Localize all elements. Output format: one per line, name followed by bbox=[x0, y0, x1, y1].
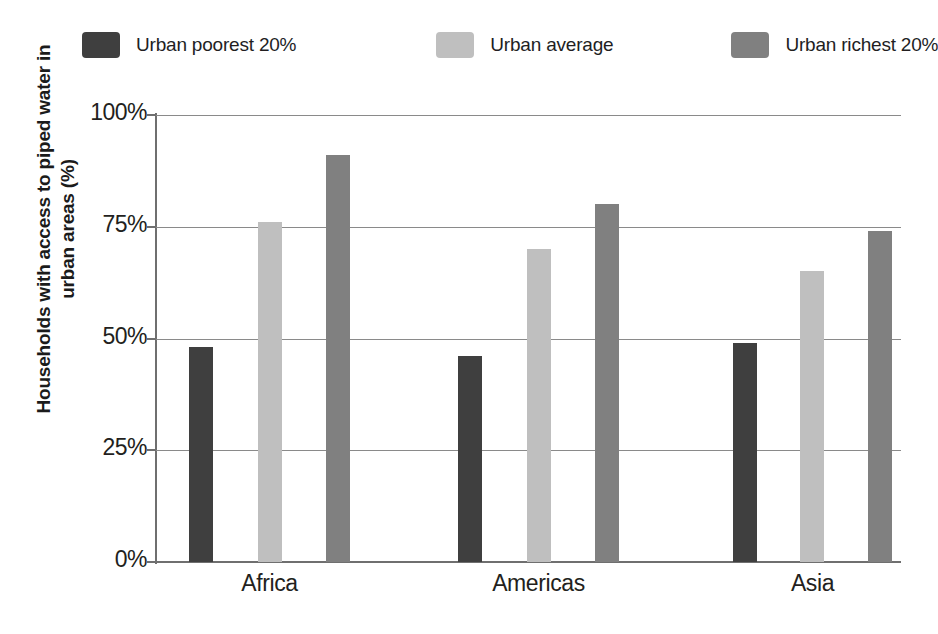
legend-swatch-urban-average bbox=[436, 32, 474, 58]
y-axis-tick-labels: 0%25%50%75%100% bbox=[52, 0, 147, 634]
y-tick-mark-100% bbox=[147, 114, 156, 116]
y-tick-label: 50% bbox=[61, 323, 147, 350]
legend-item-urban-average: Urban average bbox=[436, 32, 613, 58]
x-axis-category-labels: AfricaAmericasAsia bbox=[155, 570, 901, 610]
bar-asia-urban-richest-20[interactable] bbox=[868, 231, 892, 562]
bar-americas-urban-average[interactable] bbox=[527, 249, 551, 562]
y-tick-mark-0% bbox=[147, 561, 156, 563]
bar-africa-urban-richest-20[interactable] bbox=[326, 155, 350, 562]
x-label-americas: Americas bbox=[492, 570, 585, 597]
bar-africa-urban-average[interactable] bbox=[258, 222, 282, 562]
legend-label-urban-richest: Urban richest 20% bbox=[785, 34, 938, 56]
y-tick-label: 0% bbox=[61, 546, 147, 573]
bar-americas-urban-poorest-20[interactable] bbox=[458, 356, 482, 562]
gridline-100% bbox=[155, 115, 901, 116]
x-label-asia: Asia bbox=[791, 570, 834, 597]
legend-swatch-urban-richest bbox=[731, 32, 769, 58]
y-tick-label: 100% bbox=[61, 99, 147, 126]
y-tick-label: 25% bbox=[61, 434, 147, 461]
y-tick-mark-25% bbox=[147, 449, 156, 451]
bar-asia-urban-average[interactable] bbox=[800, 271, 824, 562]
y-axis-title-line1: Households with access to piped water in bbox=[33, 45, 54, 414]
bar-africa-urban-poorest-20[interactable] bbox=[189, 347, 213, 562]
legend-item-urban-richest: Urban richest 20% bbox=[731, 32, 938, 58]
bar-asia-urban-poorest-20[interactable] bbox=[733, 343, 757, 562]
x-label-africa: Africa bbox=[241, 570, 297, 597]
plot-area bbox=[155, 115, 901, 562]
y-tick-mark-50% bbox=[147, 338, 156, 340]
y-tick-mark-75% bbox=[147, 226, 156, 228]
legend-label-urban-average: Urban average bbox=[490, 34, 613, 56]
legend-label-urban-poorest: Urban poorest 20% bbox=[136, 34, 296, 56]
bar-americas-urban-richest-20[interactable] bbox=[595, 204, 619, 562]
y-tick-label: 75% bbox=[61, 211, 147, 238]
